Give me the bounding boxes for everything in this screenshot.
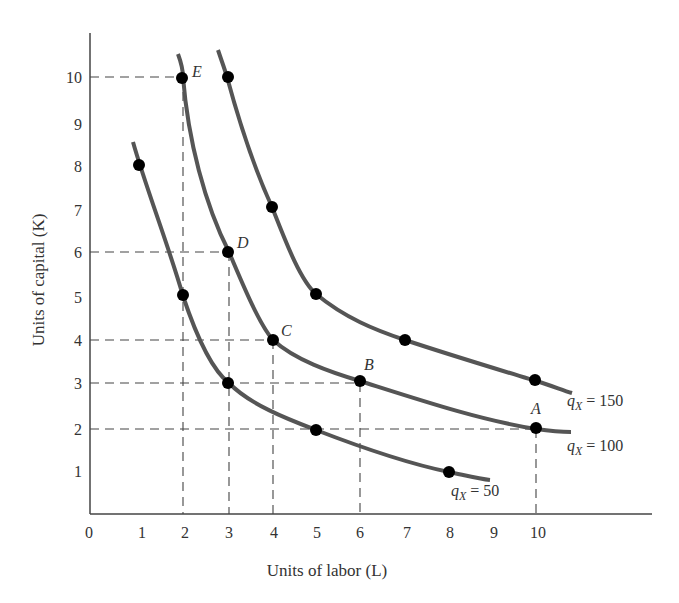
label-A: A bbox=[530, 400, 541, 417]
y-tick-1: 1 bbox=[74, 463, 82, 480]
point-q150-4-7 bbox=[266, 201, 278, 213]
label-D: D bbox=[236, 234, 249, 251]
label-E: E bbox=[191, 63, 202, 80]
x-tick-4: 4 bbox=[270, 524, 278, 541]
point-A bbox=[530, 422, 542, 434]
isoquant-curves bbox=[133, 50, 572, 480]
x-tick-5: 5 bbox=[313, 524, 321, 541]
point-q50-8-1 bbox=[443, 466, 455, 478]
y-tick-8: 8 bbox=[74, 158, 82, 175]
point-B bbox=[354, 375, 366, 387]
x-tick-3: 3 bbox=[225, 524, 233, 541]
label-q150: qX = 150 bbox=[567, 392, 623, 413]
point-q150-5-5 bbox=[310, 288, 322, 300]
x-tick-9: 9 bbox=[490, 524, 498, 541]
point-q50-1-8 bbox=[133, 159, 145, 171]
point-D bbox=[222, 246, 234, 258]
y-tick-4: 4 bbox=[74, 332, 82, 349]
x-tick-10: 10 bbox=[530, 524, 546, 541]
point-q50-3-3 bbox=[222, 377, 234, 389]
y-tick-3: 3 bbox=[74, 375, 82, 392]
label-q100: qX = 100 bbox=[567, 437, 623, 458]
point-q150-10-3 bbox=[529, 374, 541, 386]
label-B: B bbox=[364, 356, 374, 373]
point-q150-3-10 bbox=[222, 71, 234, 83]
label-C: C bbox=[281, 322, 292, 339]
y-axis-title: Units of capital (K) bbox=[29, 214, 48, 347]
point-E bbox=[176, 72, 188, 84]
y-tick-7: 7 bbox=[74, 202, 82, 219]
x-axis-title: Units of labor (L) bbox=[267, 561, 387, 580]
point-q50-2-5 bbox=[177, 289, 189, 301]
y-tick-6: 6 bbox=[74, 244, 82, 261]
point-q150-7-4 bbox=[399, 334, 411, 346]
x-tick-0: 0 bbox=[85, 524, 93, 541]
x-tick-2: 2 bbox=[181, 524, 189, 541]
point-q50-5-2 bbox=[310, 424, 322, 436]
y-tick-5: 5 bbox=[74, 289, 82, 306]
y-tick-2: 2 bbox=[74, 421, 82, 438]
x-tick-8: 8 bbox=[446, 524, 454, 541]
x-tick-6: 6 bbox=[356, 524, 364, 541]
y-tick-10: 10 bbox=[66, 69, 82, 86]
x-tick-7: 7 bbox=[403, 524, 411, 541]
y-tick-9: 9 bbox=[74, 116, 82, 133]
x-tick-labels: 0 1 2 3 4 5 6 7 8 9 10 bbox=[85, 524, 546, 541]
label-q50: qX = 50 bbox=[451, 482, 499, 503]
point-labels: E D C B A bbox=[191, 63, 541, 417]
point-C bbox=[267, 334, 279, 346]
x-tick-1: 1 bbox=[138, 524, 146, 541]
y-tick-labels: 1 2 3 4 5 6 7 8 9 10 bbox=[66, 69, 82, 480]
isoquant-chart: E D C B A qX = 150 qX = 100 qX = 50 0 1 … bbox=[0, 0, 679, 603]
